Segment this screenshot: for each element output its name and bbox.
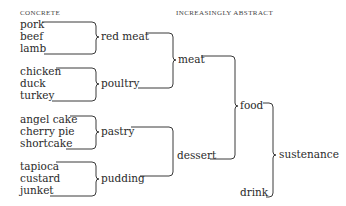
item-angel-cake: angel cake <box>20 113 77 125</box>
item-pork: pork <box>20 18 45 30</box>
category-drink: drink <box>240 186 269 198</box>
category-red-meat: red meat <box>101 30 150 42</box>
item-custard: custard <box>20 172 61 184</box>
item-junket: junket <box>18 184 54 196</box>
category-poultry: poultry <box>101 77 139 89</box>
category-pastry: pastry <box>101 125 135 137</box>
category-meat: meat <box>178 53 205 65</box>
abstraction-ladder-diagram: CONCRETE INCREASINGLY ABSTRACT pork beef… <box>0 0 346 206</box>
item-beef: beef <box>20 30 44 42</box>
bracket-sustenance <box>263 103 276 197</box>
bracket-food <box>201 56 238 159</box>
bracket-dessert <box>131 127 173 176</box>
category-sustenance: sustenance <box>279 148 339 160</box>
item-tapioca: tapioca <box>20 160 59 172</box>
header-concrete: CONCRETE <box>20 9 60 17</box>
header-increasingly-abstract: INCREASINGLY ABSTRACT <box>176 9 273 17</box>
bracket-red-meat <box>42 22 99 54</box>
item-chicken: chicken <box>20 65 61 77</box>
item-lamb: lamb <box>20 42 47 54</box>
category-food: food <box>240 99 264 111</box>
item-turkey: turkey <box>20 89 55 101</box>
category-pudding: pudding <box>101 172 145 184</box>
item-shortcake: shortcake <box>20 137 72 149</box>
item-cherry-pie: cherry pie <box>20 125 74 137</box>
item-duck: duck <box>20 77 46 89</box>
